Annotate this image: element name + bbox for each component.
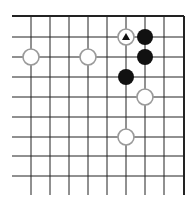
black-stone[interactable] — [137, 29, 153, 45]
go-board-diagram — [0, 0, 192, 213]
white-stone[interactable] — [118, 129, 134, 145]
white-stone[interactable] — [23, 49, 39, 65]
white-stone[interactable] — [137, 89, 153, 105]
white-stone[interactable] — [80, 49, 96, 65]
black-stone[interactable] — [137, 49, 153, 65]
black-stone[interactable] — [118, 69, 134, 85]
